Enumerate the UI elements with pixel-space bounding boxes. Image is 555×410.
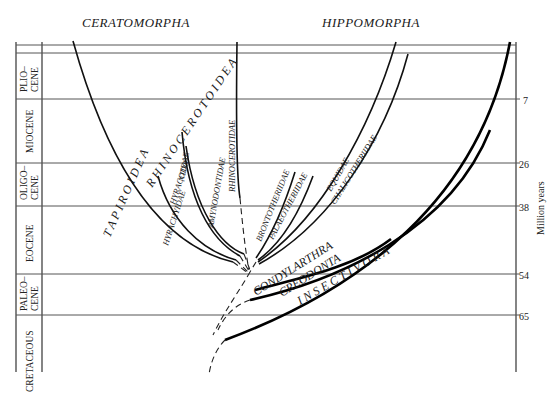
phylogeny-diagram: CERATOMORPHA HIPPOMORPHA PLIO– CENE MIOC… — [0, 0, 555, 410]
svg-text:CENE: CENE — [30, 67, 40, 92]
svg-text:OLIGO–: OLIGO– — [19, 165, 29, 200]
svg-text:CENE: CENE — [30, 175, 40, 200]
period-cretaceous: CRETACEOUS — [25, 330, 35, 392]
tick-7: 7 — [523, 95, 528, 106]
period-paleocene: PALEO– CENE — [19, 276, 40, 311]
label-rhinocerotidae: RHINOCEROTIDAE — [227, 119, 237, 193]
header-ceratomorpha: CERATOMORPHA — [82, 15, 190, 30]
period-pliocene: PLIO– CENE — [19, 66, 40, 92]
hippo-dash — [250, 262, 256, 272]
axis-label: Million years — [535, 181, 546, 235]
condylarthra-dash — [213, 272, 250, 335]
svg-text:EOCENE: EOCENE — [25, 224, 35, 262]
period-miocene: MIOCENE — [25, 110, 35, 153]
label-amynodontidae: AMYNODONTIDAE — [205, 156, 227, 229]
period-eocene: EOCENE — [25, 224, 35, 262]
branch-chalicotheriidae — [259, 54, 408, 264]
svg-text:CENE: CENE — [30, 286, 40, 311]
tick-65: 65 — [519, 311, 529, 322]
tick-26: 26 — [519, 159, 529, 170]
tick-54: 54 — [519, 270, 529, 281]
header-hippomorpha: HIPPOMORPHA — [321, 15, 420, 30]
insectivora-dash — [209, 340, 225, 375]
period-oligocene: OLIGO– CENE — [19, 165, 40, 200]
label-tapiroidea: T A P I R O I D E A — [100, 147, 152, 240]
tick-38: 38 — [519, 202, 529, 213]
svg-text:MIOCENE: MIOCENE — [25, 110, 35, 153]
branch-tapiroidea — [73, 41, 233, 262]
svg-text:PALEO–: PALEO– — [19, 276, 29, 311]
branch-tapiroidea-dash — [233, 262, 248, 273]
svg-text:PLIO–: PLIO– — [19, 66, 29, 92]
svg-text:CRETACEOUS: CRETACEOUS — [25, 330, 35, 392]
